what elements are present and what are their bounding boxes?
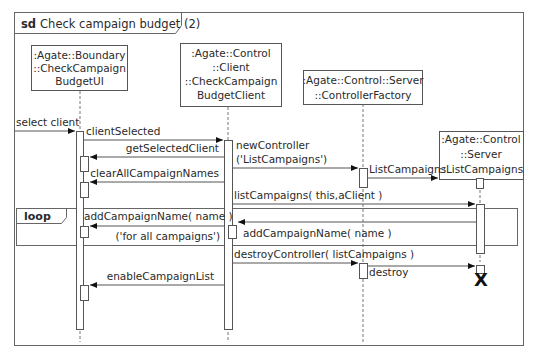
- message-new-controller-label-1: newController: [236, 139, 310, 151]
- lifeline-box-server: :Agate::Control ::Server ::ListCampaigns: [439, 132, 524, 180]
- lifeline-server-line-3: ::ListCampaigns: [439, 163, 523, 175]
- frame-keyword: sd: [21, 17, 36, 31]
- message-get-selected-client-label: getSelectedClient: [126, 142, 219, 154]
- lifeline-factory-line-2: ::ControllerFactory: [314, 89, 411, 101]
- frame-title-text: Check campaign budget (2): [40, 17, 200, 31]
- activation-ui-enable: [81, 286, 89, 301]
- lifeline-ui-line-2: ::CheckCampaign: [33, 62, 126, 74]
- message-client-selected-label: clientSelected: [86, 125, 160, 137]
- activation-factory-destroy: [360, 264, 368, 279]
- activation-factory-create: [360, 169, 368, 188]
- loop-guard: ('for all campaigns'): [115, 230, 220, 242]
- message-enable-campaign-list-label: enableCampaignList: [107, 270, 214, 282]
- lifeline-box-client: :Agate::Control ::Client ::CheckCampaign…: [181, 44, 282, 107]
- message-add-campaign-name-ui-label: addCampaignName( name ): [84, 210, 233, 222]
- message-new-controller-label-2: ('ListCampaigns'): [236, 153, 327, 165]
- lifeline-ui-line-1: :Agate::Boundary: [33, 49, 125, 61]
- message-add-campaign-name-client-label: addCampaignName( name ): [243, 227, 392, 239]
- message-list-campaigns-label: listCampaigns( this,aClient ): [234, 189, 382, 201]
- lifeline-box-factory: :Agate::Control::Server ::ControllerFact…: [303, 71, 425, 105]
- frame-title: sdCheck campaign budget (2): [21, 17, 200, 31]
- activation-ui-add: [81, 227, 89, 238]
- message-create-list-campaigns-label: ListCampaigns: [369, 163, 446, 175]
- message-clear-all-campaign-names-label: clearAllCampaignNames: [90, 167, 219, 179]
- activation-server-create: [477, 179, 484, 189]
- lifeline-client-line-1: :Agate::Control: [191, 47, 270, 59]
- lifeline-server-line-2: ::Server: [460, 148, 502, 160]
- activation-client-add: [229, 226, 237, 239]
- lifeline-server-line-1: :Agate::Control: [441, 133, 520, 145]
- destroy-x-icon: X: [474, 269, 488, 290]
- activation-ui-clear: [81, 183, 89, 198]
- lifeline-ui-line-3: BudgetUI: [55, 75, 104, 87]
- lifeline-box-ui: :Agate::Boundary ::CheckCampaign BudgetU…: [32, 46, 128, 91]
- message-destroy-controller-label: destroyController( listCampaigns ): [234, 248, 414, 260]
- sequence-diagram: sdCheck campaign budget (2) :Agate::Boun…: [0, 0, 534, 362]
- message-destroy-label: destroy: [369, 266, 408, 278]
- loop-operator: loop: [24, 210, 51, 223]
- message-select-client-label: select client: [16, 116, 79, 128]
- activation-server-list: [477, 205, 485, 254]
- lifeline-factory-line-1: :Agate::Control::Server: [303, 74, 425, 86]
- lifeline-client-line-3: ::CheckCampaign: [185, 75, 278, 87]
- activation-ui-getselected: [81, 157, 89, 172]
- lifeline-client-line-2: ::Client: [212, 61, 249, 73]
- lifeline-client-line-4: BudgetClient: [197, 89, 265, 101]
